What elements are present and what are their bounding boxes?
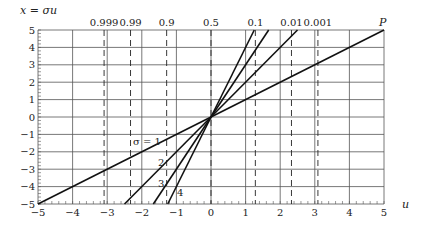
- y-tick-label: 2: [29, 77, 35, 88]
- quantile-label: 0.9: [159, 17, 175, 28]
- x-axis-title: u: [402, 198, 409, 211]
- sigma-2-label: 2: [158, 157, 164, 168]
- x-tick-label: −1: [169, 207, 184, 218]
- x-tick-label: 3: [312, 207, 318, 218]
- y-tick-label: 5: [29, 25, 35, 36]
- y-axis-title: x = σu: [20, 4, 57, 17]
- y-tick-label: −1: [20, 129, 35, 140]
- y-tick-labels: −5−4−3−2−1012345: [20, 25, 35, 210]
- y-tick-label: −4: [20, 181, 35, 192]
- x-tick-label: 4: [346, 207, 352, 218]
- quantile-label: 0.5: [203, 17, 219, 28]
- y-tick-label: −3: [20, 164, 35, 175]
- x-tick-label: 2: [277, 207, 283, 218]
- sigma-4-label: 4: [177, 187, 183, 198]
- sigma-1-label: σ = 1: [133, 136, 161, 147]
- x-tick-labels: −5−4−3−2−1012345: [31, 207, 388, 218]
- quantile-label: 0.01: [280, 17, 302, 28]
- y-tick-label: −5: [20, 199, 35, 210]
- y-tick-label: 0: [29, 112, 35, 123]
- quantile-chart: 0.9990.990.90.50.10.010.001 −5−4−3−2−101…: [0, 0, 427, 227]
- quantile-label: 0.1: [247, 17, 263, 28]
- quantile-lines: 0.9990.990.90.50.10.010.001: [90, 17, 332, 204]
- quantile-label: 0.999: [90, 17, 119, 28]
- y-tick-label: 4: [29, 42, 35, 53]
- x-tick-label: 0: [208, 207, 214, 218]
- x-tick-label: 5: [381, 207, 387, 218]
- x-tick-label: −3: [100, 207, 115, 218]
- x-tick-label: −2: [134, 207, 149, 218]
- y-tick-label: 3: [29, 59, 35, 70]
- x-tick-label: 1: [242, 207, 248, 218]
- y-tick-label: −2: [20, 146, 35, 157]
- sigma-3-label: 3: [158, 178, 164, 189]
- y-tick-label: 1: [29, 94, 35, 105]
- point-p-label: P: [378, 16, 387, 29]
- x-tick-label: −4: [65, 207, 80, 218]
- quantile-label: 0.001: [304, 17, 333, 28]
- quantile-label: 0.99: [119, 17, 141, 28]
